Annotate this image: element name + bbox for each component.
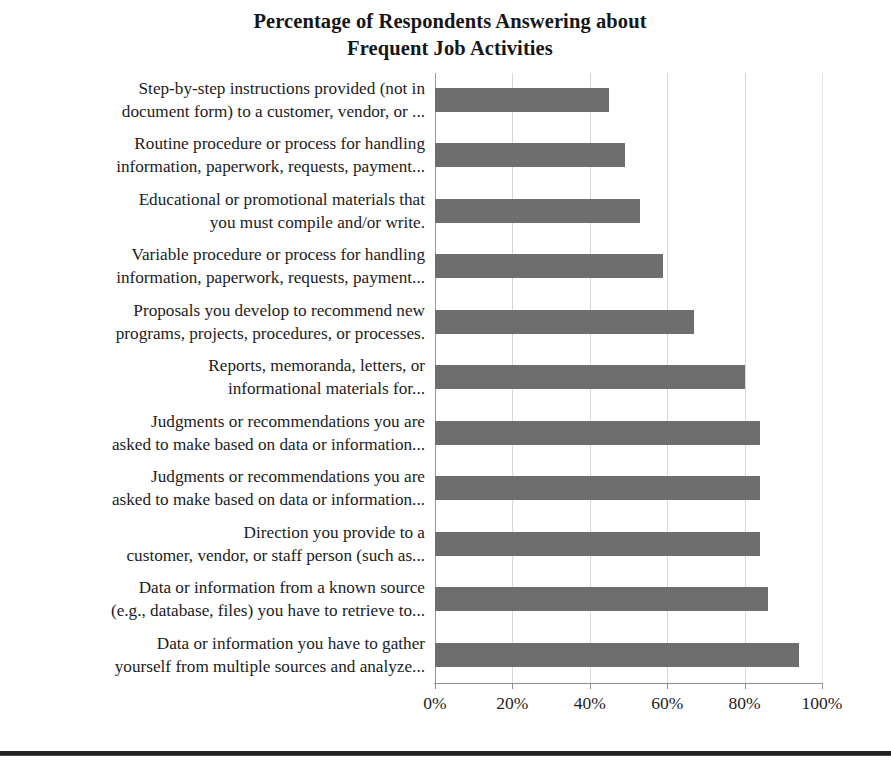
category-label-line: customer, vendor, or staff person (such … [37, 544, 425, 567]
bar-chart-figure: Percentage of Respondents Answering abou… [0, 0, 891, 766]
category-label-6: Judgments or recommendations you areaske… [37, 410, 425, 456]
x-tick-label-40pct: 40% [550, 692, 630, 714]
tick-mark-20pct [512, 683, 513, 689]
bar-6 [435, 421, 760, 445]
category-label-line: Proposals you develop to recommend new [37, 299, 425, 322]
category-label-9: Data or information from a known source(… [37, 576, 425, 622]
category-label-line: information, paperwork, requests, paymen… [37, 155, 425, 178]
gridline-100pct [822, 73, 823, 683]
category-label-line: informational materials for... [37, 377, 425, 400]
category-label-line: information, paperwork, requests, paymen… [37, 266, 425, 289]
category-label-line: asked to make based on data or informati… [37, 433, 425, 456]
chart-title-line-1: Percentage of Respondents Answering abou… [120, 8, 780, 35]
bar-1 [435, 143, 625, 167]
bar-row [435, 239, 822, 294]
category-label-line: Reports, memoranda, letters, or [37, 354, 425, 377]
bar-row [435, 184, 822, 239]
bar-row [435, 461, 822, 516]
category-label-1: Routine procedure or process for handlin… [37, 132, 425, 178]
chart-title-line-2: Frequent Job Activities [120, 35, 780, 62]
bar-row [435, 350, 822, 405]
tick-mark-40pct [590, 683, 591, 689]
category-label-3: Variable procedure or process for handli… [37, 243, 425, 289]
bar-4 [435, 310, 694, 334]
bar-8 [435, 532, 760, 556]
category-label-8: Direction you provide to acustomer, vend… [37, 521, 425, 567]
x-tick-label-20pct: 20% [472, 692, 552, 714]
x-tick-label-100pct: 100% [782, 692, 862, 714]
category-label-line: (e.g., database, files) you have to retr… [37, 599, 425, 622]
bar-row [435, 628, 822, 683]
bar-row [435, 517, 822, 572]
tick-mark-0pct [435, 683, 436, 689]
category-label-line: Educational or promotional materials tha… [37, 188, 425, 211]
category-label-line: programs, projects, procedures, or proce… [37, 322, 425, 345]
x-axis-tick-labels: 0%20%40%60%80%100% [0, 692, 891, 720]
bar-row [435, 572, 822, 627]
tick-mark-100pct [822, 683, 823, 689]
x-axis-line [434, 683, 823, 684]
category-label-5: Reports, memoranda, letters, orinformati… [37, 354, 425, 400]
bar-9 [435, 587, 768, 611]
category-label-line: Direction you provide to a [37, 521, 425, 544]
x-tick-label-80pct: 80% [705, 692, 785, 714]
tick-mark-80pct [745, 683, 746, 689]
category-label-line: yourself from multiple sources and analy… [37, 655, 425, 678]
category-label-line: Judgments or recommendations you are [37, 410, 425, 433]
category-label-line: Routine procedure or process for handlin… [37, 132, 425, 155]
bar-0 [435, 88, 609, 112]
category-label-10: Data or information you have to gatheryo… [37, 632, 425, 678]
bar-3 [435, 254, 663, 278]
category-label-line: asked to make based on data or informati… [37, 488, 425, 511]
footer-rule-thin [0, 755, 891, 756]
x-tick-label-0pct: 0% [395, 692, 475, 714]
chart-title: Percentage of Respondents Answering abou… [120, 8, 780, 62]
category-label-line: document form) to a customer, vendor, or… [37, 100, 425, 123]
bar-row [435, 128, 822, 183]
bar-10 [435, 643, 799, 667]
bar-2 [435, 199, 640, 223]
plot-area [435, 73, 822, 683]
bar-row [435, 406, 822, 461]
bar-7 [435, 476, 760, 500]
tick-mark-60pct [667, 683, 668, 689]
bar-row [435, 73, 822, 128]
category-label-line: Step-by-step instructions provided (not … [37, 77, 425, 100]
category-label-line: Judgments or recommendations you are [37, 465, 425, 488]
category-label-0: Step-by-step instructions provided (not … [37, 77, 425, 123]
category-label-line: Variable procedure or process for handli… [37, 243, 425, 266]
category-axis-labels: Step-by-step instructions provided (not … [35, 73, 425, 683]
category-label-line: Data or information from a known source [37, 576, 425, 599]
category-label-line: you must compile and/or write. [37, 211, 425, 234]
category-label-2: Educational or promotional materials tha… [37, 188, 425, 234]
category-label-7: Judgments or recommendations you areaske… [37, 465, 425, 511]
category-label-4: Proposals you develop to recommend newpr… [37, 299, 425, 345]
bar-5 [435, 365, 745, 389]
category-label-line: Data or information you have to gather [37, 632, 425, 655]
bar-row [435, 295, 822, 350]
x-tick-label-60pct: 60% [627, 692, 707, 714]
